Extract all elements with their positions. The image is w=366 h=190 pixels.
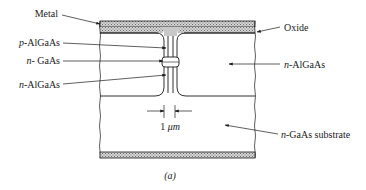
bottom-metal-layer xyxy=(100,152,255,158)
label-metal: Metal xyxy=(35,8,59,19)
label-oxide: Oxide xyxy=(284,22,309,33)
dimension-label: 1 μm xyxy=(160,121,180,132)
label-p-algaas: p-AlGaAs xyxy=(18,37,60,48)
top-metal-layer xyxy=(100,21,255,27)
label-n-gaas: n- GaAs xyxy=(26,55,60,66)
label-substrate: n-GaAs substrate xyxy=(281,129,351,140)
laser-cross-section-diagram: 1 μm Metal Oxide p-AlGaAs n- GaAs n-AlGa… xyxy=(0,0,366,190)
dimension-marker xyxy=(147,105,192,118)
label-n-algaas-left: n-AlGaAs xyxy=(19,79,60,90)
label-n-algaas-right: n-AlGaAs xyxy=(284,59,325,70)
figure-caption: (a) xyxy=(164,170,176,182)
